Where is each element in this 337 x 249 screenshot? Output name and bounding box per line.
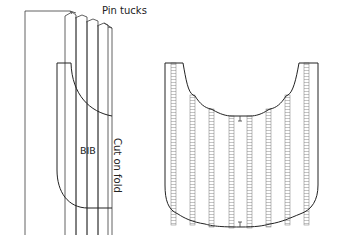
center-marker-bottom [238, 222, 242, 227]
center-marker-top [238, 116, 242, 121]
bib-label: BIB [80, 145, 96, 156]
bib-with-pin-tucks [165, 63, 318, 228]
pattern-diagram [0, 0, 337, 249]
pin-tucks-label: Pin tucks [102, 5, 147, 16]
cut-on-fold-label: Cut on fold [112, 138, 123, 193]
